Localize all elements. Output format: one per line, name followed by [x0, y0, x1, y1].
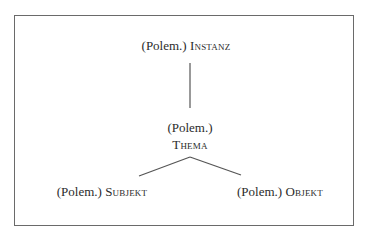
edge-thema-objekt: [190, 157, 241, 175]
node-subjekt: (Polem.) Subjekt: [57, 184, 148, 200]
node-instanz-term: Instanz: [190, 38, 231, 53]
node-objekt-prefix: (Polem.): [237, 184, 282, 199]
edge-thema-subjekt: [139, 157, 190, 176]
node-objekt: (Polem.) Objekt: [237, 184, 323, 200]
node-instanz: (Polem.) Instanz: [142, 38, 231, 54]
node-subjekt-term: Subjekt: [105, 184, 147, 199]
node-thema-term: Thema: [167, 136, 212, 153]
node-subjekt-prefix: (Polem.): [57, 184, 102, 199]
node-instanz-prefix: (Polem.): [142, 38, 187, 53]
node-thema-prefix: (Polem.): [167, 119, 212, 136]
node-thema: (Polem.) Thema: [167, 119, 212, 153]
node-objekt-term: Objekt: [285, 184, 323, 199]
